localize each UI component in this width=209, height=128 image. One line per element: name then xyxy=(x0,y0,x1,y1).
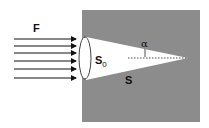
cone-base-ellipse xyxy=(79,37,91,79)
flux-arrows xyxy=(14,39,76,78)
half-angle-label: α xyxy=(141,38,148,49)
diagram-canvas: F S0 S α xyxy=(0,0,209,128)
base-area-main: S xyxy=(95,54,102,66)
flux-label: F xyxy=(33,22,40,34)
base-area-subscript: 0 xyxy=(102,60,107,69)
lateral-surface-label: S xyxy=(125,74,132,86)
